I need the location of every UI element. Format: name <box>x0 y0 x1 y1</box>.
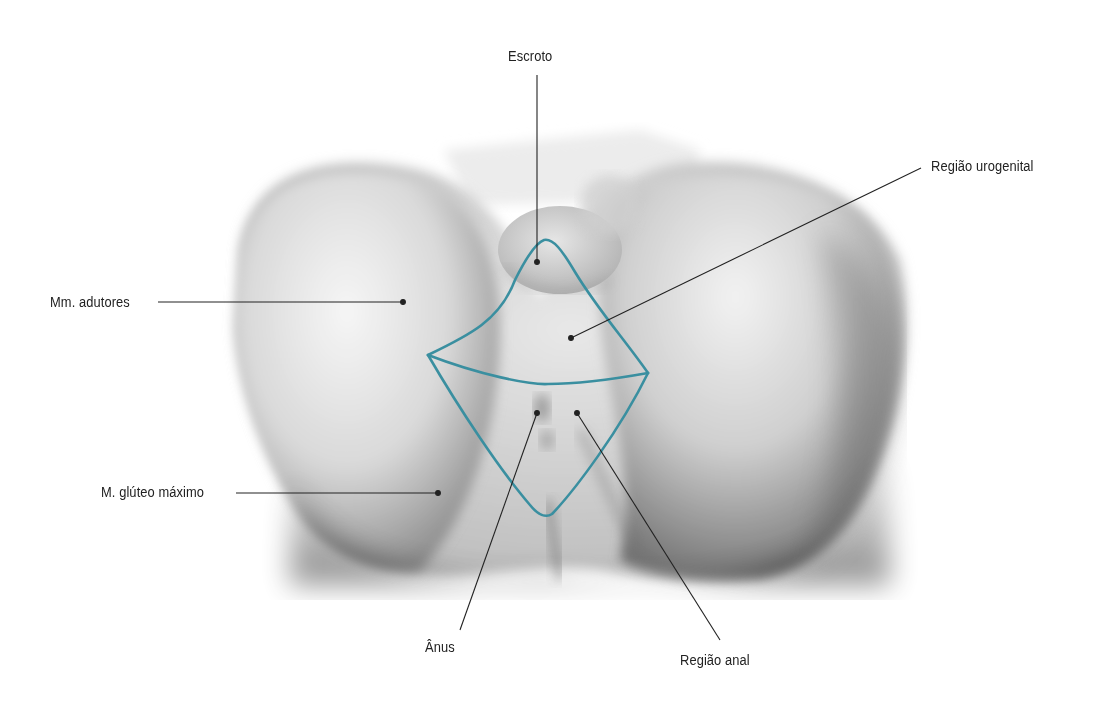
perineum-figure: Escroto Região urogenital Mm. adutores M… <box>0 0 1107 706</box>
anus-shape <box>534 394 550 422</box>
anatomy-illustration <box>0 0 1107 706</box>
label-anus: Ânus <box>425 639 455 655</box>
label-regiao-urogenital: Região urogenital <box>931 158 1034 174</box>
label-m-gluteo-maximo: M. glúteo máximo <box>101 484 204 500</box>
label-mm-adutores: Mm. adutores <box>50 294 130 310</box>
label-regiao-anal: Região anal <box>680 652 750 668</box>
label-escroto: Escroto <box>508 48 552 64</box>
